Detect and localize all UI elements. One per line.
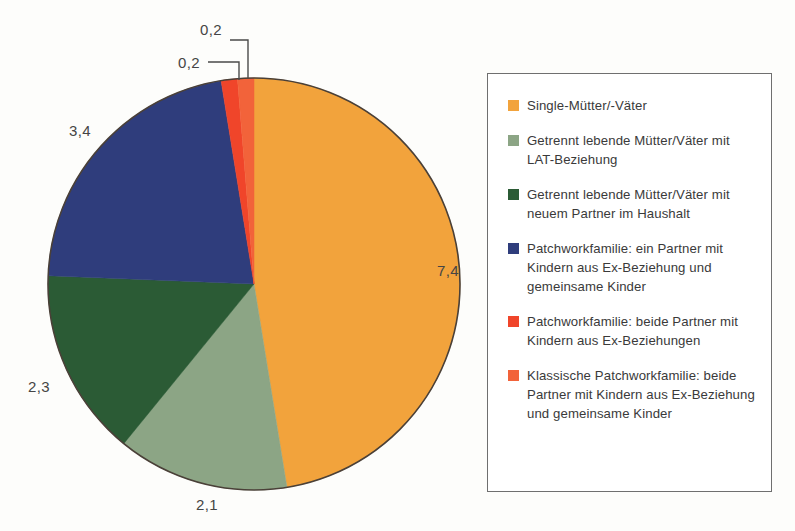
pie-slice[interactable] <box>48 81 254 284</box>
legend-item-label: Patchworkfamilie: beide Partner mit Kind… <box>527 312 760 350</box>
legend-item[interactable]: Patchworkfamilie: beide Partner mit Kind… <box>508 312 760 350</box>
legend-item-label: Single-Mütter/-Väter <box>527 96 647 115</box>
legend-item-label: Getrennt lebende Mütter/Väter mit neuem … <box>527 185 760 223</box>
pie-slice-group <box>48 78 460 490</box>
data-label-left-lower: 2,3 <box>28 378 50 395</box>
data-label-top-inner: 0,2 <box>178 54 200 71</box>
legend-item-label: Klassische Patchworkfamilie: beide Partn… <box>527 366 760 423</box>
data-label-right: 7,4 <box>437 262 459 279</box>
legend-swatch-icon <box>508 135 519 146</box>
legend: Single-Mütter/-VäterGetrennt lebende Müt… <box>487 73 772 492</box>
legend-item[interactable]: Getrennt lebende Mütter/Väter mit neuem … <box>508 185 760 223</box>
legend-list: Single-Mütter/-VäterGetrennt lebende Müt… <box>508 96 760 423</box>
legend-item-label: Getrennt lebende Mütter/Väter mit LAT-Be… <box>527 131 760 169</box>
data-label-bottom: 2,1 <box>196 496 218 513</box>
legend-swatch-icon <box>508 243 519 254</box>
pie-svg <box>0 0 480 531</box>
legend-item-label: Patchworkfamilie: ein Partner mit Kinder… <box>527 239 760 296</box>
legend-swatch-icon <box>508 100 519 111</box>
pie-slice[interactable] <box>254 78 460 487</box>
legend-item[interactable]: Getrennt lebende Mütter/Väter mit LAT-Be… <box>508 131 760 169</box>
legend-item[interactable]: Klassische Patchworkfamilie: beide Partn… <box>508 366 760 423</box>
data-label-left-upper: 3,4 <box>69 122 91 139</box>
legend-swatch-icon <box>508 189 519 200</box>
pie-plot-area: 0,2 0,2 3,4 2,3 2,1 7,4 <box>0 0 480 531</box>
legend-item[interactable]: Single-Mütter/-Väter <box>508 96 760 115</box>
pie-chart: 0,2 0,2 3,4 2,3 2,1 7,4 Single-Mütter/-V… <box>0 0 795 531</box>
data-label-top-outer: 0,2 <box>200 21 222 38</box>
legend-swatch-icon <box>508 316 519 327</box>
legend-swatch-icon <box>508 370 519 381</box>
leader-line-group <box>208 40 248 80</box>
leader-line-top-inner <box>208 62 239 80</box>
legend-item[interactable]: Patchworkfamilie: ein Partner mit Kinder… <box>508 239 760 296</box>
